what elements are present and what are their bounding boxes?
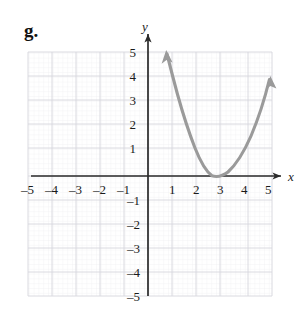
ytick-label: 4 [130, 69, 137, 84]
ytick-label: 2 [130, 117, 137, 132]
ytick-label: –5 [126, 289, 140, 304]
xtick-label: 1 [169, 182, 176, 197]
xtick-label: 2 [193, 182, 200, 197]
ytick-label: –3 [126, 241, 140, 256]
xtick-label: 3 [217, 182, 224, 197]
graph-figure: g. [0, 0, 304, 318]
ytick-label: –1 [126, 193, 140, 208]
coordinate-plane: x y –5 –4 –3 –2 –1 1 2 3 4 5 5 4 3 2 1 –… [0, 0, 304, 318]
ytick-label: –4 [126, 265, 141, 280]
y-axis-label: y [140, 19, 148, 34]
ytick-label: 3 [130, 93, 137, 108]
x-axis-label: x [287, 169, 294, 184]
ytick-label: 1 [130, 141, 137, 156]
ytick-label: –2 [126, 217, 140, 232]
xtick-label: 4 [241, 182, 248, 197]
xtick-label: –3 [68, 182, 82, 197]
xtick-label: –4 [44, 182, 59, 197]
xtick-label: 5 [265, 182, 272, 197]
xtick-label: –2 [92, 182, 106, 197]
xtick-label: –5 [20, 182, 34, 197]
grid-minor [28, 52, 272, 296]
ytick-label: 5 [130, 45, 137, 60]
